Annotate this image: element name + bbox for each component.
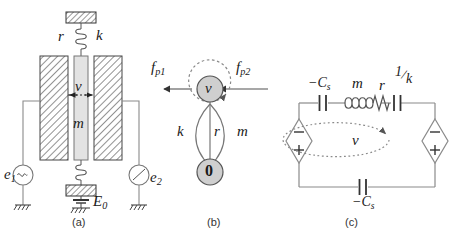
label-capacitor-bottom: −Cs	[352, 195, 375, 211]
label-inductor-m: m	[352, 76, 363, 91]
capacitor-bottom	[360, 179, 367, 195]
inductor-m	[345, 98, 373, 109]
source-right	[422, 119, 448, 163]
fraction-denominator: k	[406, 71, 412, 86]
label-capacitor-inverse-k: 1/k	[395, 68, 412, 82]
label-mesh-current-v: v	[352, 133, 359, 148]
label-resistor-r: r	[379, 78, 385, 93]
circuit-wires	[299, 103, 435, 187]
capacitor-top-left	[320, 95, 327, 111]
capacitor-inverse-k	[394, 95, 401, 111]
caption-c: (c)	[345, 216, 358, 228]
panel-c-circuit	[0, 0, 456, 246]
label-capacitor-top-left: −Cs	[308, 76, 331, 92]
source-left	[286, 119, 312, 163]
